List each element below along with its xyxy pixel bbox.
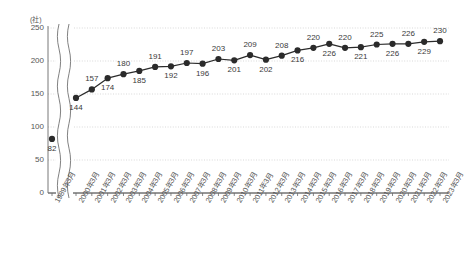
data-point-label: 229 [413,47,435,56]
data-point-label: 174 [97,83,119,92]
data-point-label: 208 [271,41,293,50]
y-axis-tick-label: 50 [18,155,44,164]
data-point-label: 191 [144,52,166,61]
y-axis-tick-label: 100 [18,122,44,131]
data-point-label: 197 [176,48,198,57]
data-point-label: 185 [128,76,150,85]
data-point-label: 82 [41,144,63,153]
data-point-label: 220 [334,33,356,42]
data-point-label: 192 [160,71,182,80]
data-point-label: 216 [287,55,309,64]
data-point-label: 230 [429,26,451,35]
data-point-label: 226 [397,29,419,38]
data-point-label: 180 [112,59,134,68]
y-axis-tick-label: 250 [18,23,44,32]
data-point-label: 226 [318,49,340,58]
data-point-label: 225 [366,30,388,39]
data-point-label: 221 [350,52,372,61]
data-point-label: 226 [382,49,404,58]
data-point-label: 209 [239,40,261,49]
data-point-label: 196 [192,69,214,78]
data-point-label: 144 [65,103,87,112]
y-axis-tick-label: 150 [18,89,44,98]
y-axis-tick-label: 0 [18,188,44,197]
data-point-label: 157 [81,74,103,83]
data-point-label: 220 [302,33,324,42]
y-axis-tick-label: 200 [18,56,44,65]
data-point-label: 203 [207,44,229,53]
data-point-label: 201 [223,65,245,74]
data-point-label: 202 [255,65,277,74]
